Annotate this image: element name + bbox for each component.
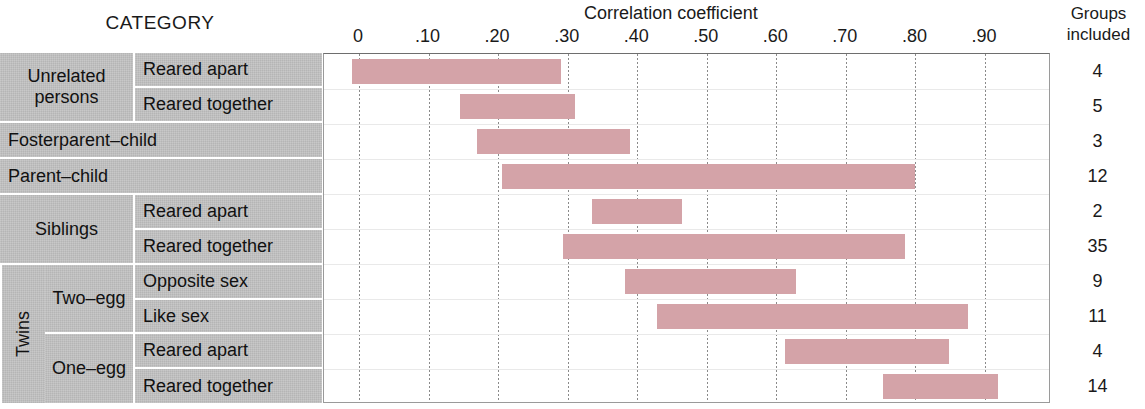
range-bar <box>460 94 575 119</box>
x-axis-tick-labels: 0.10.20.30.40.50.60.70.80.90 <box>0 26 1145 52</box>
subcategory-two-egg-opposite-sex: Opposite sex <box>135 265 322 300</box>
row-separator <box>324 159 1049 160</box>
gridline-.40 <box>637 54 638 402</box>
groups-header-line1: Groups <box>1052 3 1145 24</box>
x-tick-label-.60: .60 <box>745 26 805 47</box>
range-bar <box>563 234 905 259</box>
category-two-egg: Two–egg <box>45 265 135 334</box>
category-one-egg: One–egg <box>45 334 135 403</box>
x-tick-label-.40: .40 <box>606 26 666 47</box>
x-tick-label-.10: .10 <box>398 26 458 47</box>
groups-included-value: 14 <box>1050 376 1145 397</box>
correlation-coefficient-chart: CATEGORY Correlation coefficient Groups … <box>0 0 1145 409</box>
groups-included-value: 12 <box>1050 166 1145 187</box>
row-separator <box>324 229 1049 230</box>
x-tick-label-.80: .80 <box>884 26 944 47</box>
groups-included-column: 45312235911414 <box>1050 53 1145 403</box>
gridline-.90 <box>985 54 986 402</box>
groups-included-value: 4 <box>1050 61 1145 82</box>
row-separator <box>324 334 1049 335</box>
subcategory-one-egg-reared-together: Reared together <box>135 369 322 403</box>
subcategory-one-egg-reared-apart: Reared apart <box>135 334 322 369</box>
range-bar <box>592 199 682 224</box>
groups-included-value: 3 <box>1050 131 1145 152</box>
x-tick-label-0: 0 <box>328 26 388 47</box>
gridline-.10 <box>429 54 430 402</box>
groups-included-value: 4 <box>1050 341 1145 362</box>
x-tick-label-.50: .50 <box>676 26 736 47</box>
category-siblings: Siblings <box>0 195 135 265</box>
range-bar <box>352 59 561 84</box>
row-separator <box>324 89 1049 90</box>
range-bar <box>477 129 630 154</box>
row-separator <box>324 264 1049 265</box>
category-unrelated-persons-label: Unrelatedpersons <box>27 66 105 108</box>
subcategory-unrelated-reared-apart: Reared apart <box>135 53 322 88</box>
row-separator <box>324 369 1049 370</box>
range-bar <box>785 339 949 364</box>
subcategory-two-egg-like-sex: Like sex <box>135 300 322 334</box>
x-tick-label-.90: .90 <box>954 26 1014 47</box>
groups-included-value: 2 <box>1050 201 1145 222</box>
x-tick-label-.30: .30 <box>537 26 597 47</box>
category-twins: Twins <box>0 265 45 403</box>
x-tick-label-.70: .70 <box>815 26 875 47</box>
range-bar <box>657 304 969 329</box>
category-fosterparent-child: Fosterparent–child <box>0 123 322 159</box>
subcategory-siblings-reared-together: Reared together <box>135 230 322 265</box>
row-separator <box>324 194 1049 195</box>
row-separator <box>324 124 1049 125</box>
groups-included-value: 9 <box>1050 271 1145 292</box>
groups-included-value: 5 <box>1050 96 1145 117</box>
range-bar <box>625 269 796 294</box>
range-bar <box>883 374 998 399</box>
range-bar <box>502 164 916 189</box>
groups-included-value: 35 <box>1050 236 1145 257</box>
category-parent-child: Parent–child <box>0 159 322 195</box>
plot-area <box>323 53 1050 403</box>
subcategory-siblings-reared-apart: Reared apart <box>135 195 322 230</box>
row-separator <box>324 299 1049 300</box>
subcategory-unrelated-reared-together: Reared together <box>135 88 322 123</box>
category-table: Unrelatedpersons Reared apart Reared tog… <box>0 53 322 403</box>
axis-title: Correlation coefficient <box>358 3 984 24</box>
gridline-0 <box>359 54 360 402</box>
category-unrelated-persons: Unrelatedpersons <box>0 53 135 123</box>
gridline-.50 <box>707 54 708 402</box>
groups-included-value: 11 <box>1050 306 1145 327</box>
x-tick-label-.20: .20 <box>467 26 527 47</box>
gridline-.60 <box>776 54 777 402</box>
